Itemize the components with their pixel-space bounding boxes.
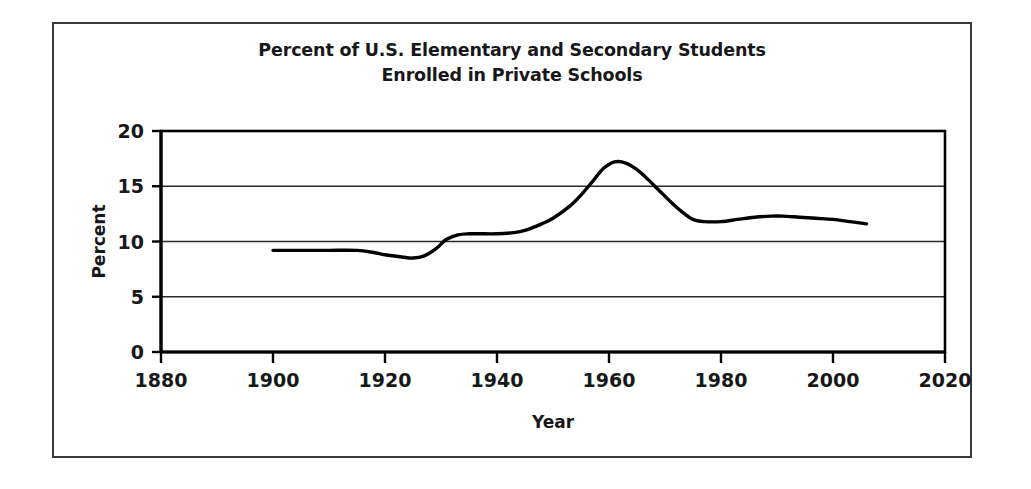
chart-page: Percent of U.S. Elementary and Secondary… bbox=[0, 0, 1031, 489]
chart-title: Percent of U.S. Elementary and Secondary… bbox=[54, 38, 970, 88]
figure-border: Percent of U.S. Elementary and Secondary… bbox=[52, 22, 972, 458]
